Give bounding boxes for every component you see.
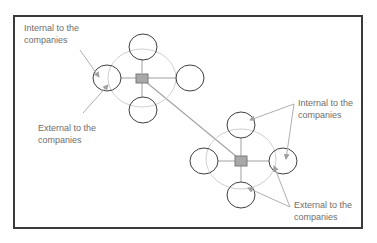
label-external-right: External to the companies bbox=[294, 199, 352, 223]
label-external-left: External to the companies bbox=[38, 122, 96, 146]
arrow-internal-right-top bbox=[250, 104, 294, 120]
arrow-external-left bbox=[83, 85, 108, 113]
satellite-node-left bbox=[93, 65, 121, 91]
arrow-internal-left bbox=[80, 50, 99, 77]
label-line-2: companies bbox=[298, 109, 353, 121]
hub-node bbox=[235, 156, 247, 166]
label-line-1: Internal to the bbox=[24, 22, 79, 34]
satellite-node-bottom bbox=[129, 97, 157, 123]
satellite-node-right bbox=[176, 65, 204, 91]
label-internal-right: Internal to the companies bbox=[298, 97, 353, 121]
label-line-2: companies bbox=[38, 134, 96, 146]
satellite-node-top bbox=[227, 112, 255, 138]
company-cluster-1 bbox=[93, 34, 204, 123]
hub-node bbox=[136, 74, 148, 83]
label-internal-left: Internal to the companies bbox=[24, 22, 79, 46]
satellite-node-left bbox=[190, 148, 218, 174]
company-cluster-2 bbox=[190, 112, 297, 208]
label-line-2: companies bbox=[24, 34, 79, 46]
satellite-node-top bbox=[129, 34, 157, 60]
arrow-internal-right-right bbox=[286, 104, 294, 159]
label-line-1: External to the bbox=[294, 199, 352, 211]
label-line-1: External to the bbox=[38, 122, 96, 134]
satellite-node-right bbox=[269, 148, 297, 174]
satellite-node-bottom bbox=[227, 182, 255, 208]
label-line-1: Internal to the bbox=[298, 97, 353, 109]
label-line-2: companies bbox=[294, 211, 352, 223]
cluster-connector-line bbox=[146, 82, 237, 157]
